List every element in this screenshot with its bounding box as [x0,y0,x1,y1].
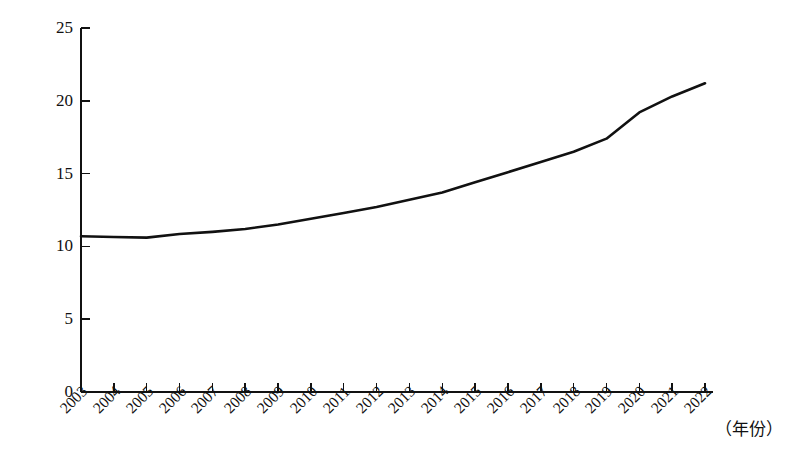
axis-ticks [81,28,705,392]
axis-lines [81,28,713,392]
x-axis-unit-label: （年份） [715,420,783,438]
y-tick-label: 15 [27,165,73,182]
y-tick-label: 5 [27,310,73,327]
line-chart: 0510152025 20032004200520062007200820092… [0,0,788,452]
series-line [81,83,705,237]
y-tick-label: 25 [27,19,73,36]
data-series-layer [81,83,705,237]
y-tick-label: 20 [27,92,73,109]
y-tick-label: 10 [27,237,73,254]
